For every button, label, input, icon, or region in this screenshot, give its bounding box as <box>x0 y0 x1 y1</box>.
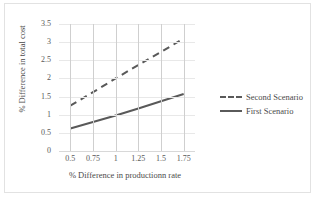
legend-item[interactable]: First Scenario <box>220 104 315 118</box>
gridline-vertical <box>70 24 71 151</box>
gridline-vertical <box>184 24 185 151</box>
x-axis-baseline <box>59 151 195 152</box>
gridline-horizontal <box>59 133 195 134</box>
gridline-horizontal <box>59 60 195 61</box>
gridline-vertical <box>93 24 94 151</box>
legend-item-label: Second Scenario <box>246 92 303 102</box>
y-axis-tick-label: 1 <box>5 111 51 119</box>
gridline-horizontal <box>59 97 195 98</box>
chart-legend: Second ScenarioFirst Scenario <box>220 90 315 118</box>
gridline-horizontal <box>59 115 195 116</box>
dashed-line-icon <box>220 96 242 98</box>
y-axis-title: % Difference in total cost <box>17 9 27 129</box>
chart-frame: 00.511.522.533.5 0.50.7511.251.51.75 % D… <box>4 3 311 193</box>
legend-item-label: First Scenario <box>246 106 293 116</box>
gridline-horizontal <box>59 42 195 43</box>
x-axis-title: % Difference in productionn rate <box>25 170 225 180</box>
gridline-horizontal <box>59 78 195 79</box>
y-axis-tick-label: 0.5 <box>5 129 51 137</box>
x-axis-tick-label: 1.75 <box>167 154 201 163</box>
gridline-vertical <box>161 24 162 151</box>
y-axis-tick-label: 2 <box>5 74 51 82</box>
series-line <box>70 94 183 128</box>
y-axis-tick-label: 2.5 <box>5 56 51 64</box>
solid-line-icon <box>220 110 242 112</box>
y-axis-tick-label: 0 <box>5 147 51 155</box>
plot-area <box>59 24 195 151</box>
y-axis-tick-label: 3.5 <box>5 20 51 28</box>
gridline-vertical <box>138 24 139 151</box>
gridline-vertical <box>116 24 117 151</box>
legend-item[interactable]: Second Scenario <box>220 90 315 104</box>
y-axis-tick-label: 3 <box>5 38 51 46</box>
gridline-horizontal <box>59 24 195 25</box>
y-axis-tick-label: 1.5 <box>5 93 51 101</box>
series-line <box>70 39 183 106</box>
